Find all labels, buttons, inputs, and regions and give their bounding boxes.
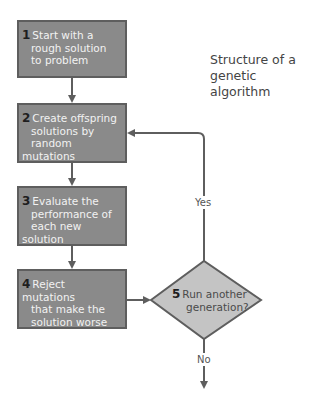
step-2-box: 2Create offspring solutions by random mu…	[17, 103, 127, 163]
step-number: 4	[22, 277, 30, 291]
step-text-line: Evaluate the	[32, 195, 98, 207]
step-text-line: rough solution	[22, 42, 106, 54]
step-number: 5	[172, 287, 180, 301]
step-text-line: random mutations	[22, 137, 75, 162]
decision-text-line: generation?	[172, 301, 256, 314]
decision-label: 5Run another generation?	[172, 288, 256, 313]
step-text-line: to problem	[22, 54, 88, 66]
yes-label: Yes	[195, 196, 211, 209]
decision-text-line: Run another	[182, 288, 247, 300]
arrow-yes-loop	[129, 133, 204, 261]
step-text-line: Start with a	[32, 29, 93, 41]
step-4-box: 4Reject mutations that make the solution…	[17, 269, 127, 329]
step-3-box: 3Evaluate the performance of each new so…	[17, 186, 127, 246]
step-text-line: solution worse	[22, 316, 107, 328]
step-number: 2	[22, 111, 30, 125]
step-number: 1	[22, 28, 30, 42]
step-text-line: Create offspring	[32, 112, 117, 124]
step-1-box: 1Start with a rough solution to problem	[17, 20, 127, 78]
step-text-line: that make the	[22, 303, 105, 315]
title-line-2: genetic algorithm	[210, 68, 320, 100]
step-text-line: solutions by	[22, 125, 94, 137]
step-text-line: each new solution	[22, 220, 81, 245]
no-label: No	[197, 353, 211, 366]
step-number: 3	[22, 194, 30, 208]
diagram-title: Structure of a genetic algorithm	[210, 52, 320, 100]
step-text-line: performance of	[22, 208, 112, 220]
title-line-1: Structure of a	[210, 52, 320, 68]
